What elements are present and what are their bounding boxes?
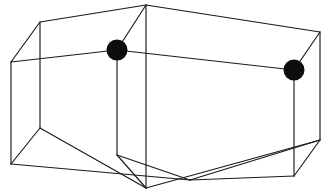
wireframe-box-diagram [0,0,332,193]
vertex-marker-dot-left [107,40,128,61]
vertex-marker-dot-right [284,60,305,81]
figure-background [0,0,332,193]
figure-container [0,0,332,193]
